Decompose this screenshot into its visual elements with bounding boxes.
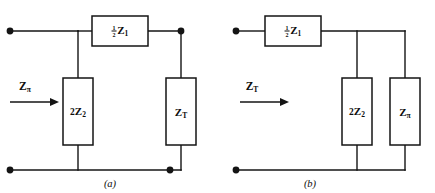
panel-b-port-subscript: T — [253, 85, 258, 94]
panel-a-caption: (a) — [104, 179, 116, 190]
panel-b-input-arrow-icon — [240, 98, 289, 106]
panel-a-series-denominator: 2 — [112, 31, 117, 37]
panel-b-series-fraction: 12 — [285, 24, 290, 37]
panel-a-node-dot-bottom-right — [167, 167, 174, 174]
panel-a-wiring — [10, 31, 181, 170]
panel-b-node-dot-bottom-left — [233, 167, 240, 174]
panel-b-caption: (b) — [304, 179, 316, 190]
panel-b-right-shunt-subscript: π — [407, 111, 411, 120]
panel-a-series-numerator: 1 — [112, 24, 117, 31]
panel-a-series-fraction: 12 — [112, 24, 117, 37]
panel-b-series-symbol: Z — [290, 24, 297, 36]
panel-a-port-impedance-label: Zπ — [19, 81, 31, 93]
panel-a-node-dot-top-left — [7, 28, 14, 35]
panel-b-mid-shunt-subscript: 2 — [361, 110, 365, 119]
panel-a-input-arrow-icon — [10, 98, 59, 106]
figure-root: Zπ 12Z1 2Z2 ZT (a) ZT 12Z1 2Z2 Zπ (b) — [0, 0, 435, 193]
panel-b-series-numerator: 1 — [285, 24, 290, 31]
panel-a-right-shunt-subscript: T — [182, 111, 187, 120]
panel-b-wiring — [236, 31, 405, 170]
panel-a-series-subscript: 1 — [125, 29, 129, 38]
panel-a-series-symbol: Z — [117, 24, 124, 36]
panel-b-series-denominator: 2 — [285, 31, 290, 37]
panel-a-left-shunt-subscript: 2 — [82, 110, 86, 119]
panel-b-node-dot-top-left — [233, 28, 240, 35]
panel-a-node-dot-bottom-left — [7, 167, 14, 174]
panel-a-port-symbol: Z — [19, 80, 27, 92]
panel-a-node-dot-top-right — [178, 28, 185, 35]
circuit-schematic-svg — [0, 0, 435, 193]
panel-b-mid-shunt-impedance-label: 2Z2 — [349, 106, 365, 118]
panel-a-right-shunt-impedance-label: ZT — [175, 107, 188, 118]
panel-b-series-impedance-label: 12Z1 — [285, 25, 302, 38]
panel-b-series-subscript: 1 — [298, 29, 302, 38]
panel-a-left-shunt-impedance-label: 2Z2 — [70, 106, 86, 118]
panel-b-port-symbol: Z — [246, 80, 254, 92]
panel-a-port-subscript: π — [27, 85, 31, 94]
panel-a-series-impedance-label: 12Z1 — [112, 25, 129, 38]
panel-b-right-shunt-impedance-label: Zπ — [399, 107, 411, 118]
panel-b-port-impedance-label: ZT — [246, 81, 259, 93]
